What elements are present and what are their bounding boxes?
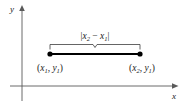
y-axis-group — [19, 5, 25, 101]
x-axis-group — [10, 83, 179, 89]
segment-right-endpoint-dot — [137, 51, 142, 56]
brace-path — [50, 45, 140, 50]
x-axis-arrowhead — [172, 83, 179, 89]
right-point-label: (x2, y1) — [129, 63, 155, 74]
distance-brace — [50, 45, 140, 50]
y-axis-arrowhead — [19, 5, 25, 11]
distance-minus: − — [90, 31, 100, 41]
segment-group — [47, 51, 142, 56]
left-point-label: (x1, y1) — [37, 63, 63, 74]
y-axis-label: y — [9, 4, 14, 14]
right-paren-close: ) — [152, 63, 155, 74]
segment-left-endpoint-dot — [47, 51, 52, 56]
figure-canvas: y x |x2 − x1| (x1, y1) (x2, y1) — [0, 0, 187, 106]
x-axis-label: x — [171, 91, 176, 101]
distance-label: |x2 − x1| — [81, 31, 110, 42]
distance-bar-close: | — [108, 31, 110, 41]
left-paren-close: ) — [60, 63, 63, 74]
figure-coordinate-distance: y x |x2 − x1| (x1, y1) (x2, y1) — [0, 0, 187, 106]
